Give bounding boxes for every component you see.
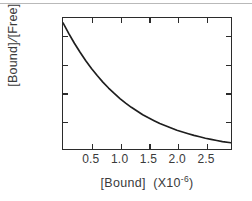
y-axis-label-numerator: [Bound] [6, 42, 20, 87]
top-rule-divider [0, 3, 252, 4]
data-curve-line [63, 23, 231, 143]
y-tick-mark [63, 65, 68, 66]
x-tick-mark-top [178, 18, 179, 23]
y-tick-mark-right [226, 65, 231, 66]
y-tick-mark-right [226, 36, 231, 37]
x-tick-mark-top [149, 18, 150, 23]
x-axis-label-unit-prefix: (X10 [153, 176, 181, 190]
x-tick-label: 2.5 [197, 152, 214, 166]
y-tick-mark-right [226, 122, 231, 123]
y-tick-mark [63, 122, 68, 123]
curve-svg [63, 18, 231, 149]
x-axis-label-unit-suffix: ) [189, 176, 193, 190]
y-tick-mark [63, 36, 68, 37]
y-tick-mark-right [226, 93, 231, 94]
x-tick-label: 0.5 [82, 152, 99, 166]
x-tick-mark [92, 144, 93, 149]
y-axis-label-denominator: [Free] [6, 4, 20, 38]
x-tick-label: 1.5 [140, 152, 157, 166]
x-tick-label: 2.0 [169, 152, 186, 166]
x-tick-mark [121, 144, 122, 149]
x-axis-label-main: [Bound] [101, 176, 146, 190]
x-tick-mark [149, 144, 150, 149]
x-axis-label: [Bound] (X10-6) [62, 176, 232, 190]
x-axis-label-unit-exponent: -6 [181, 174, 189, 184]
scatchard-plot-figure: 1.02.03.04.0 0.51.01.52.02.5 [Bound] (X1… [0, 0, 252, 201]
x-tick-mark [178, 144, 179, 149]
x-tick-mark-top [121, 18, 122, 23]
x-tick-mark-top [92, 18, 93, 23]
x-tick-mark [207, 144, 208, 149]
plot-frame [62, 17, 232, 150]
y-axis-label: [Bound]/[Free] (X103) [6, 0, 20, 91]
x-tick-mark-top [207, 18, 208, 23]
y-tick-mark [63, 93, 68, 94]
x-tick-label: 1.0 [111, 152, 128, 166]
